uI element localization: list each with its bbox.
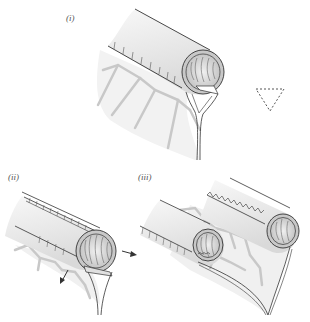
diagram-canvas (0, 0, 310, 322)
arrow-right-icon (122, 251, 137, 257)
panel-iii-illustration (140, 178, 299, 315)
dashed-triangle-icon (256, 89, 284, 111)
panel-i-illustration (97, 9, 224, 160)
panel-ii-illustration (5, 192, 116, 315)
